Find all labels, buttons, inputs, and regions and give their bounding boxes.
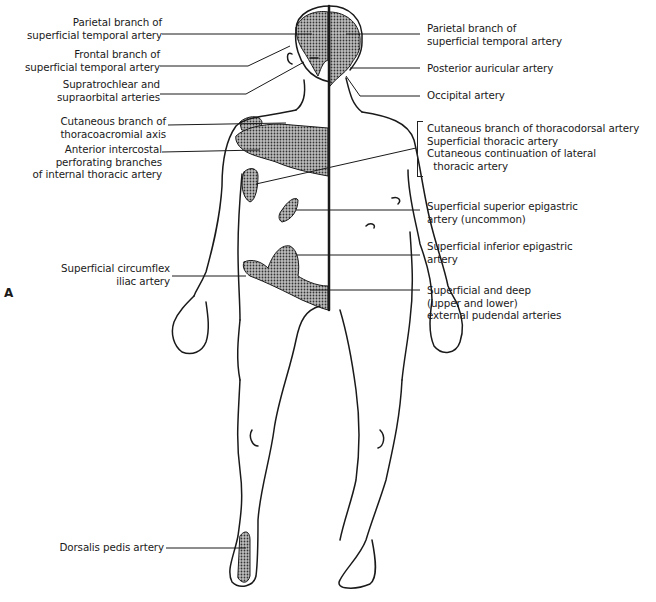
label-anterior-intercostal: Anterior intercostal perforating branche… — [33, 143, 162, 181]
label-superficial-inferior-epigastric: Superficial inferior epigastric artery — [427, 240, 573, 265]
label-thoracoacromial: Cutaneous branch of thoracoacromial axis — [60, 115, 166, 140]
label-external-pudendal: Superficial and deep (upper and lower) e… — [427, 284, 561, 322]
shaded-regions — [236, 12, 360, 583]
bracket — [417, 121, 423, 177]
label-dorsalis-pedis: Dorsalis pedis artery — [59, 541, 164, 554]
label-thoracodorsal-group: Cutaneous branch of thoracodorsal artery… — [427, 122, 639, 172]
label-superficial-superior-epigastric: Superficial superior epigastric artery (… — [427, 200, 578, 225]
label-parietal-branch-right: Parietal branch of superficial temporal … — [427, 22, 562, 47]
label-frontal-branch: Frontal branch of superficial temporal a… — [25, 48, 160, 73]
label-occipital: Occipital artery — [427, 89, 505, 102]
label-parietal-branch-left: Parietal branch of superficial temporal … — [27, 16, 162, 41]
panel-label: A — [4, 286, 13, 300]
label-posterior-auricular: Posterior auricular artery — [427, 62, 553, 75]
label-superficial-circumflex-iliac: Superficial circumflex iliac artery — [61, 262, 170, 287]
label-supratrochlear: Supratrochlear and supraorbital arteries — [57, 78, 160, 103]
